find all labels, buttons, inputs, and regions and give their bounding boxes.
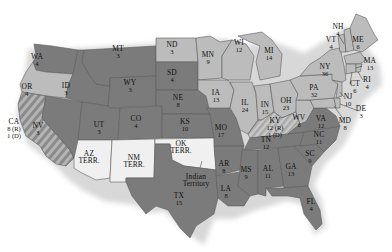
state-ct[interactable] bbox=[346, 64, 356, 74]
state-pa[interactable] bbox=[290, 74, 338, 100]
state-me[interactable] bbox=[350, 14, 378, 52]
state-wa[interactable] bbox=[33, 44, 78, 74]
state-ne[interactable] bbox=[156, 90, 210, 114]
state-co[interactable] bbox=[118, 106, 162, 140]
territory-nm[interactable] bbox=[110, 139, 155, 182]
us-electoral-map bbox=[0, 0, 392, 252]
state-sd[interactable] bbox=[156, 62, 198, 90]
state-nd[interactable] bbox=[156, 38, 198, 62]
state-ks[interactable] bbox=[162, 114, 214, 138]
state-ut[interactable] bbox=[78, 102, 120, 140]
state-wy[interactable] bbox=[108, 76, 156, 108]
